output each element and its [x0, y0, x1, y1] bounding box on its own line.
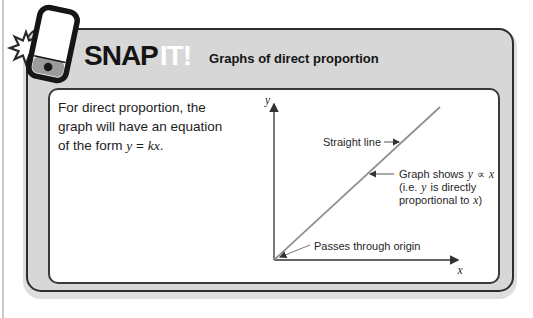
header: SNAPIT! Graphs of direct proportion [84, 30, 379, 82]
smartphone-icon [27, 6, 79, 82]
content-panel: For direct proportion, the graph will ha… [48, 88, 500, 284]
y-axis-label: y [264, 94, 271, 107]
description-line-3: of the form y = kx. [58, 136, 222, 155]
logo-snap-text: SNAP [84, 40, 158, 72]
equation-y: y [126, 138, 132, 153]
graph-shows-label-line1: Graph showsy∝x [399, 168, 495, 181]
logo-it-text: IT! [160, 40, 191, 72]
equation-equals: = [136, 138, 144, 153]
description-text: For direct proportion, the graph will ha… [58, 98, 222, 155]
description-line-1: For direct proportion, the [58, 98, 222, 117]
graph-shows-label-line2: (i.e.yis directly [399, 181, 477, 194]
snap-it-box: SNAPIT! Graphs of direct proportion For … [26, 28, 514, 292]
direct-proportion-graph: y x Straight line Graph showsy∝x (i.e.yi… [260, 90, 500, 282]
passes-origin-label: Passes through origin [314, 240, 420, 252]
equation-kx: kx [148, 138, 160, 153]
description-line-2: graph will have an equation [58, 117, 222, 136]
straight-line-label: Straight line [323, 136, 381, 148]
snap-it-logo: SNAPIT! [84, 40, 191, 72]
x-axis-label: x [456, 264, 463, 276]
header-title: Graphs of direct proportion [209, 47, 379, 66]
phone-camera-icon [0, 2, 88, 98]
graph-shows-label-line3: proportional tox) [399, 194, 482, 206]
